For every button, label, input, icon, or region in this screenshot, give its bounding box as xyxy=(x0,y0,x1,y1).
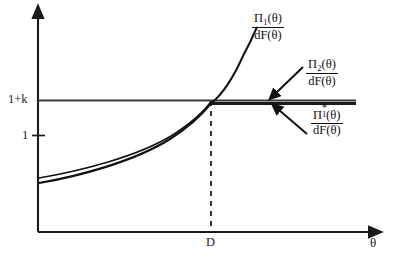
dF-open: dF( xyxy=(254,28,271,42)
subscript-1: 1 xyxy=(322,110,326,119)
annotation-pi2-numerator: Π2(θ) xyxy=(306,58,338,74)
figure-container: 1+k 1 D θ Π1(θ) dF(θ) Π2(θ) dF(θ) Π*1(θ)… xyxy=(0,0,395,264)
paren-close: ) xyxy=(332,57,336,71)
x-tick-label-D: D xyxy=(206,236,215,249)
paren-close: ) xyxy=(278,11,282,25)
x-axis-label-theta: θ xyxy=(370,236,376,249)
annotation-pi2-denominator: dF(θ) xyxy=(306,74,338,88)
y-tick-label-1-plus-k: 1+k xyxy=(8,93,28,106)
annotation-pi1: Π1(θ) dF(θ) xyxy=(252,12,284,42)
annotation-pi2: Π2(θ) dF(θ) xyxy=(306,58,338,88)
annotation-arrow-pi1-star xyxy=(279,110,307,134)
pi-glyph: Π xyxy=(308,57,317,71)
dF-open: dF( xyxy=(308,74,325,88)
annotation-pi1-denominator: dF(θ) xyxy=(252,28,284,42)
paren-close: ) xyxy=(336,108,340,122)
pi-glyph: Π xyxy=(313,108,322,122)
dF-close: ) xyxy=(336,123,340,137)
annotation-pi1-star: Π*1(θ) dF(θ) xyxy=(311,106,343,138)
dF-close: ) xyxy=(278,28,282,42)
annotation-pi1-star-numerator: Π*1(θ) xyxy=(311,106,343,124)
curve-pi1-star xyxy=(39,104,211,184)
pi-glyph: Π xyxy=(254,11,263,25)
y-tick-label-1: 1 xyxy=(22,129,28,142)
sub-sup-cluster: *1 xyxy=(322,106,326,119)
annotation-pi1-numerator: Π1(θ) xyxy=(252,12,284,28)
curve-pi2 xyxy=(39,102,211,179)
annotation-arrow-pi2 xyxy=(276,67,303,93)
dF-open: dF( xyxy=(313,123,330,137)
annotation-pi1-star-denominator: dF(θ) xyxy=(311,124,343,138)
dF-close: ) xyxy=(332,74,336,88)
curve-pi1-steep-branch xyxy=(211,27,257,104)
